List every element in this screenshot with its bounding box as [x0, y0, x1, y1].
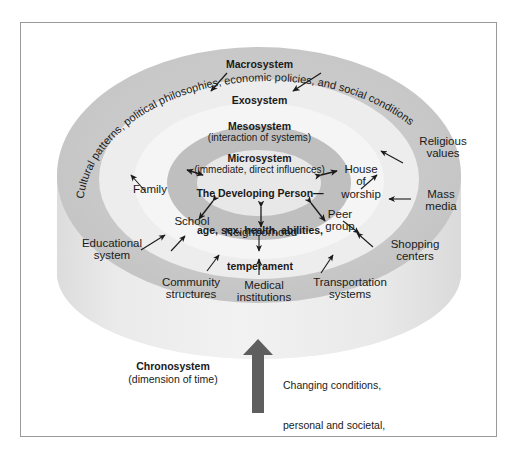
- chronosystem-caption-line-1: Changing conditions,: [283, 379, 473, 392]
- label-exosystem: Exosystem: [21, 95, 497, 106]
- node-peer-group: Peergroup: [310, 208, 370, 233]
- label-macrosystem: Macrosystem: [21, 59, 497, 70]
- figure-frame: Cultural patterns, political philosophie…: [20, 22, 497, 437]
- node-mass-media: Massmedia: [407, 188, 475, 213]
- center-line-1: The Developing Person—: [160, 187, 360, 199]
- node-family: Family: [115, 183, 185, 195]
- diagram-stage: Cultural patterns, political philosophie…: [21, 23, 496, 436]
- node-shopping-centers: Shoppingcenters: [369, 238, 461, 263]
- center-line-3: temperament: [160, 260, 360, 272]
- node-religious-values: Religiousvalues: [401, 135, 485, 160]
- node-neighborhood: Neighborhood: [206, 226, 316, 238]
- chronosystem-title: Chronosystem: [99, 361, 247, 372]
- node-house-of-worship: Houseofworship: [331, 163, 391, 200]
- chronosystem-caption: Changing conditions, personal and societ…: [283, 353, 473, 437]
- label-mesosystem: Mesosystem: [21, 121, 497, 132]
- node-transportation-systems: Transportationsystems: [293, 276, 407, 301]
- node-educational-system: Educationalsystem: [67, 237, 157, 262]
- chronosystem-subtitle: (dimension of time): [99, 374, 247, 385]
- chronosystem-caption-line-2: personal and societal,: [283, 419, 473, 432]
